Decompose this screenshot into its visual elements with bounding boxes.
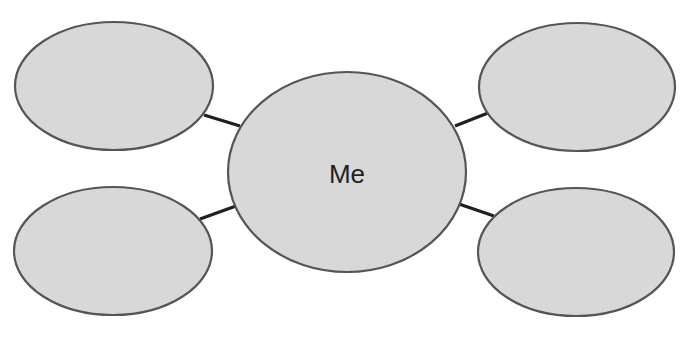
bubble-bottom-left[interactable]: [14, 187, 212, 315]
mind-map-diagram: Me: [0, 0, 693, 337]
connector-top-left: [204, 115, 240, 126]
connector-bottom-left: [200, 206, 236, 219]
bubble-top-right[interactable]: [479, 23, 675, 151]
connector-bottom-right: [459, 204, 494, 216]
connector-top-right: [455, 113, 488, 126]
bubble-top-left[interactable]: [15, 22, 213, 150]
center-label: Me: [329, 159, 365, 189]
bubble-bottom-right[interactable]: [478, 188, 674, 316]
